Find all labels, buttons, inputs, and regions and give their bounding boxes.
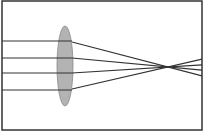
convex-lens bbox=[57, 26, 73, 106]
lens-diagram bbox=[0, 0, 206, 136]
refracted-ray-1 bbox=[72, 42, 202, 76]
